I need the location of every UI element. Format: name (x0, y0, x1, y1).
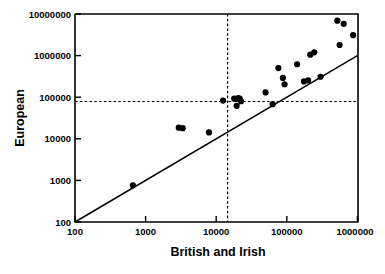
data-point (220, 97, 226, 103)
data-point (294, 61, 300, 67)
guide-lines (75, 14, 358, 222)
data-points-group (130, 18, 356, 189)
data-point (317, 74, 323, 80)
y-axis-ticks (75, 14, 81, 222)
x-ticklabel-4: 1000000 (337, 226, 374, 237)
x-axis-ticks (75, 216, 357, 222)
data-point (262, 89, 268, 95)
data-point (281, 81, 287, 87)
y-ticklabel-4: 1000 (50, 175, 71, 186)
y-tick-labels: 10000000 1000000 100000 10000 1000 100 (29, 9, 71, 228)
x-ticklabel-0: 100 (67, 226, 83, 237)
x-ticklabel-1: 1000 (135, 226, 156, 237)
data-point (341, 21, 347, 27)
y-ticklabel-0: 10000000 (29, 9, 71, 20)
data-point (311, 49, 317, 55)
data-point (130, 182, 136, 188)
data-point (206, 129, 212, 135)
y-ticklabel-2: 100000 (39, 92, 71, 103)
y-ticklabel-3: 10000 (45, 133, 71, 144)
y-axis-title: European (13, 89, 27, 147)
plot-canvas: 10000000 1000000 100000 10000 1000 100 1… (0, 0, 385, 274)
data-point (234, 103, 240, 109)
y-ticklabel-1: 1000000 (34, 50, 71, 61)
data-point (305, 77, 311, 83)
x-tick-labels: 100 1000 10000 100000 1000000 (67, 226, 373, 237)
data-point (350, 32, 356, 38)
identity-reference-line (75, 56, 357, 222)
plot-frame (75, 14, 358, 222)
x-ticklabel-3: 100000 (271, 226, 303, 237)
frame-border (75, 14, 358, 222)
data-point (270, 101, 276, 107)
data-point (280, 75, 286, 81)
x-axis-title: British and Irish (170, 245, 265, 259)
data-point (337, 42, 343, 48)
data-point (334, 18, 340, 24)
x-ticklabel-2: 10000 (203, 226, 229, 237)
data-point (180, 125, 186, 131)
data-point (238, 98, 244, 104)
scatter-plot-figure: 10000000 1000000 100000 10000 1000 100 1… (0, 0, 385, 274)
data-point (275, 65, 281, 71)
